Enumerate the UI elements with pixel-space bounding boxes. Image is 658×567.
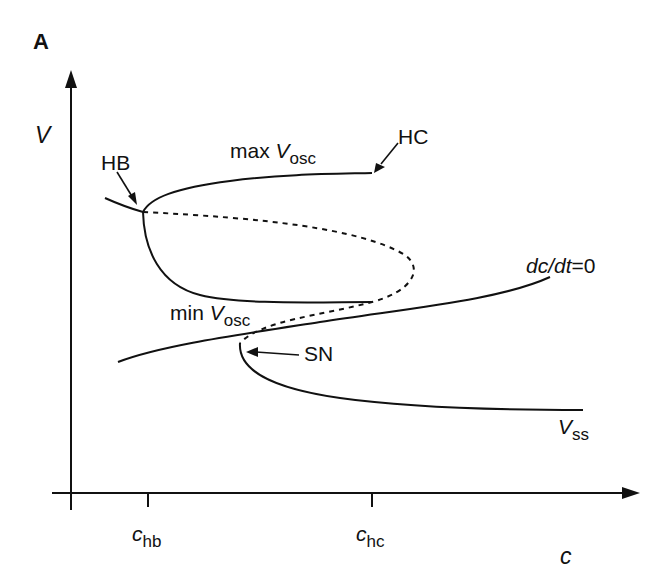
- bifurcation-diagram: [0, 0, 658, 567]
- vss-curve: [240, 343, 583, 410]
- min-vosc-sub: osc: [224, 311, 250, 330]
- panel-label: A: [33, 31, 49, 53]
- tick-label-base: c: [132, 522, 143, 545]
- max-vosc-sub: osc: [290, 149, 316, 168]
- max-vosc-base: V: [276, 139, 290, 162]
- hb-label: HB: [101, 152, 130, 173]
- tick-label-c-hb: chb: [132, 523, 161, 544]
- nullcline-italic: dc/dt: [526, 254, 572, 277]
- x-axis: [52, 487, 640, 507]
- max-vosc-curve: [143, 173, 372, 212]
- sn-arrow-icon: [246, 347, 299, 357]
- y-axis-arrow-icon: [65, 70, 77, 88]
- y-axis-label: V: [35, 124, 50, 147]
- hc-arrow-icon: [374, 143, 398, 173]
- max-vosc-label: max Vosc: [230, 140, 316, 161]
- x-axis-label: c: [560, 545, 572, 567]
- x-axis-arrow-icon: [622, 487, 640, 499]
- min-vosc-curve: [143, 212, 372, 302]
- min-vosc-label: min Vosc: [170, 302, 250, 323]
- nullcline-rest: =0: [572, 254, 596, 277]
- sn-label: SN: [304, 343, 333, 364]
- nullcline-label: dc/dt=0: [526, 255, 595, 276]
- y-axis: [65, 70, 77, 510]
- max-vosc-prefix: max: [230, 139, 276, 162]
- tick-label-base: c: [356, 522, 367, 545]
- stable-branch-upper: [105, 198, 143, 212]
- hb-arrow-icon: [117, 172, 137, 205]
- min-vosc-base: V: [210, 301, 224, 324]
- vss-base: V: [558, 415, 572, 438]
- hc-label: HC: [398, 126, 428, 147]
- min-vosc-prefix: min: [170, 301, 210, 324]
- tick-label-sub: hb: [143, 532, 162, 551]
- tick-label-c-hc: chc: [356, 523, 384, 544]
- vss-sub: ss: [572, 425, 589, 444]
- tick-label-sub: hc: [367, 532, 385, 551]
- vss-label: Vss: [558, 416, 589, 437]
